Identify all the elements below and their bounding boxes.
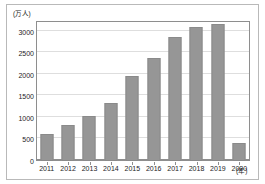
x-tick-label: 2016 (146, 165, 162, 172)
bar-2016 (147, 58, 160, 161)
x-tick-label: 2015 (125, 165, 141, 172)
bar-2014 (104, 103, 117, 161)
bar-slot (79, 21, 100, 161)
bar-2019 (211, 24, 224, 161)
x-tick-label: 2018 (189, 165, 205, 172)
bar-slot (229, 21, 250, 161)
bar-2017 (169, 37, 182, 161)
bar-slot (143, 21, 164, 161)
y-axis-tick-labels: 3000 2500 2000 1500 1000 500 0 (4, 21, 34, 161)
bar-2018 (190, 27, 203, 161)
bar-2011 (40, 134, 53, 161)
y-tick-label: 2500 (6, 50, 34, 57)
bar-2020 (233, 143, 246, 161)
x-tick-label: 2011 (39, 165, 54, 172)
bar-slot (164, 21, 185, 161)
x-axis-tick-labels: 2011 2012 2013 2014 2015 2016 2017 2018 … (36, 162, 250, 178)
bar-2012 (62, 125, 75, 161)
bar-slot (207, 21, 228, 161)
bar-slot (186, 21, 207, 161)
x-axis-unit-label: (年) (236, 165, 247, 175)
y-tick-label: 2000 (6, 71, 34, 78)
bar-2013 (83, 116, 96, 161)
y-tick-label: 500 (6, 136, 34, 143)
x-tick-label: 2017 (167, 165, 183, 172)
bar-chart-figure: (万人) 3000 2500 2000 1500 1000 500 0 (0, 0, 265, 184)
y-tick-label: 1500 (6, 93, 34, 100)
y-tick-label: 1000 (6, 114, 34, 121)
bar-slot (36, 21, 57, 161)
bar-2015 (126, 76, 139, 161)
x-tick-label: 2014 (103, 165, 119, 172)
y-tick-label: 3000 (6, 28, 34, 35)
x-tick-label: 2012 (60, 165, 76, 172)
x-tick-label: 2013 (82, 165, 98, 172)
bar-series (36, 21, 250, 161)
y-axis-unit-label: (万人) (13, 8, 31, 18)
bar-slot (57, 21, 78, 161)
bar-slot (100, 21, 121, 161)
y-tick-label: 0 (6, 158, 34, 165)
x-tick-label: 2019 (210, 165, 226, 172)
bar-slot (122, 21, 143, 161)
